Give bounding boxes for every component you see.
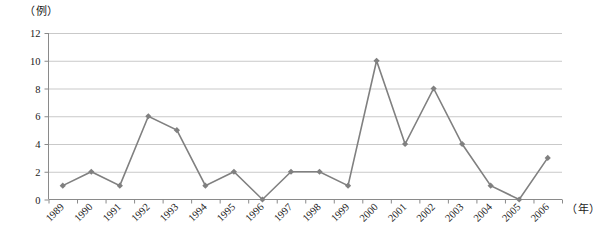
data-point-marker [145, 113, 151, 119]
x-axis-tick-label: 1989 [44, 201, 67, 224]
data-point-marker [402, 141, 408, 147]
y-axis-tick-label: 2 [35, 167, 40, 178]
x-axis-tick-label: 2006 [529, 201, 552, 224]
x-axis-tick-label: 1996 [243, 201, 266, 224]
x-axis-tick-labels: 1989199019911992199319941995199619971998… [44, 201, 552, 224]
line-chart: （例） （年） 024681012 1989199019911992199319… [0, 0, 603, 249]
y-axis-tick-label: 10 [30, 56, 41, 67]
data-point-marker [373, 58, 379, 64]
y-axis-tick-label: 12 [30, 28, 41, 39]
data-point-markers [60, 58, 551, 203]
x-axis-tick-label: 1995 [215, 201, 238, 224]
x-axis-tick-label: 1990 [72, 201, 95, 224]
y-axis-tick-labels: 024681012 [30, 28, 41, 206]
data-point-marker [316, 169, 322, 175]
data-point-marker [174, 127, 180, 133]
x-axis-tick-label: 2003 [443, 201, 466, 224]
data-point-marker [431, 85, 437, 91]
y-axis-tick-label: 8 [35, 84, 40, 95]
x-axis-tick-label: 2002 [414, 201, 437, 224]
data-point-marker [88, 169, 94, 175]
x-axis-tick-label: 2000 [357, 201, 380, 224]
x-axis-tick-label: 2001 [386, 201, 409, 224]
data-point-marker [60, 183, 66, 189]
chart-plot-area: 024681012 198919901991199219931994199519… [0, 0, 603, 249]
data-series-line [63, 61, 548, 200]
y-axis-tick-marks [45, 34, 49, 201]
y-axis-tick-label: 4 [35, 139, 41, 150]
x-axis-tick-label: 1998 [300, 201, 323, 224]
data-point-marker [117, 183, 123, 189]
x-axis-tick-label: 2005 [500, 201, 523, 224]
x-axis-tick-label: 1999 [329, 201, 352, 224]
x-axis-tick-label: 2004 [471, 201, 494, 224]
x-axis-tick-label: 1997 [272, 201, 295, 224]
y-axis-tick-label: 0 [35, 195, 40, 206]
data-point-marker [345, 183, 351, 189]
x-axis-tick-label: 1994 [186, 201, 209, 224]
x-axis-tick-label: 1992 [129, 201, 152, 224]
data-point-marker [202, 183, 208, 189]
x-axis-tick-label: 1993 [158, 201, 181, 224]
x-axis-tick-label: 1991 [101, 201, 124, 224]
gridlines [49, 34, 563, 173]
y-axis-tick-label: 6 [35, 111, 40, 122]
